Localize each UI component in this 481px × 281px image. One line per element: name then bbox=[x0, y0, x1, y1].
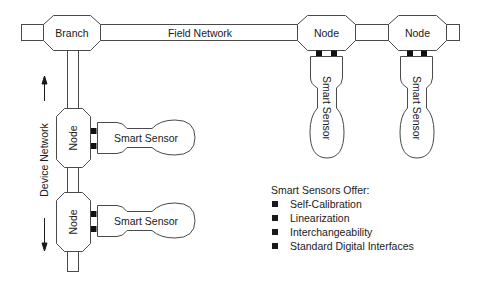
connector-pin bbox=[91, 211, 97, 217]
legend-item: Linearization bbox=[271, 211, 414, 225]
device-node-1-label: Node bbox=[67, 125, 79, 150]
smart-sensors-legend: Smart Sensors Offer: Self-Calibration Li… bbox=[271, 183, 414, 253]
legend-list: Self-Calibration Linearization Interchan… bbox=[271, 197, 414, 253]
field-sensor-2-label: Smart Sensor bbox=[411, 76, 423, 141]
arrow-down-head-icon bbox=[42, 243, 47, 251]
connector-pin bbox=[421, 51, 427, 57]
legend-item-label: Linearization bbox=[290, 212, 350, 224]
field-network-label: Field Network bbox=[168, 27, 233, 39]
connector-pin bbox=[331, 51, 337, 57]
connector-pin bbox=[316, 51, 322, 57]
legend-item: Standard Digital Interfaces bbox=[271, 239, 414, 253]
connector-pin bbox=[91, 128, 97, 134]
device-network-label: Device Network bbox=[38, 122, 50, 196]
legend-item-label: Interchangeability bbox=[290, 226, 372, 238]
legend-item-label: Standard Digital Interfaces bbox=[290, 240, 414, 252]
connector-pin bbox=[91, 143, 97, 149]
square-bullet-icon bbox=[272, 243, 278, 249]
device-node-2-label: Node bbox=[67, 209, 79, 234]
connector-pin bbox=[91, 226, 97, 232]
legend-heading: Smart Sensors Offer: bbox=[271, 183, 414, 197]
square-bullet-icon bbox=[272, 229, 278, 235]
connector-pin bbox=[407, 51, 413, 57]
field-sensor-1-label: Smart Sensor bbox=[321, 76, 333, 141]
legend-item-label: Self-Calibration bbox=[290, 198, 362, 210]
branch-label: Branch bbox=[55, 27, 88, 39]
legend-item: Self-Calibration bbox=[271, 197, 414, 211]
legend-item: Interchangeability bbox=[271, 225, 414, 239]
square-bullet-icon bbox=[272, 201, 278, 207]
device-sensor-2-label: Smart Sensor bbox=[114, 215, 179, 227]
device-sensor-1-label: Smart Sensor bbox=[114, 132, 179, 144]
square-bullet-icon bbox=[272, 215, 278, 221]
field-node-1-label: Node bbox=[314, 27, 339, 39]
field-node-2-label: Node bbox=[405, 27, 430, 39]
arrow-up-head-icon bbox=[42, 76, 47, 84]
